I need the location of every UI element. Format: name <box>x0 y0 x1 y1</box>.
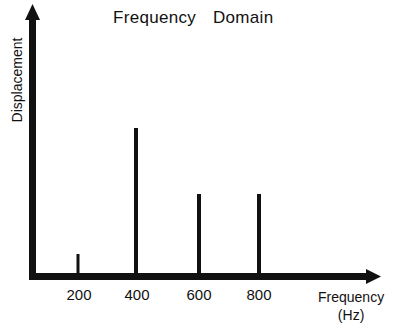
x-axis-label: Frequency (Hz) <box>318 288 384 324</box>
x-axis-arrow-icon <box>366 269 381 284</box>
spectral-line-600 <box>197 194 201 277</box>
x-tick-label: 800 <box>239 286 279 303</box>
x-tick-label: 400 <box>117 286 157 303</box>
x-axis-unit: (Hz) <box>318 306 384 324</box>
spectral-lines <box>77 128 262 277</box>
spectral-line-200 <box>77 254 80 277</box>
y-axis-label: Displacement <box>9 25 25 135</box>
spectral-line-400 <box>134 128 138 277</box>
spectral-line-800 <box>257 194 261 277</box>
y-axis <box>29 18 36 280</box>
x-axis-title: Frequency <box>318 288 384 306</box>
x-tick-label: 200 <box>59 286 99 303</box>
y-axis-arrow-icon <box>25 4 40 20</box>
chart-title: Frequency Domain <box>113 8 273 28</box>
chart-canvas <box>0 0 396 330</box>
x-tick-label: 600 <box>179 286 219 303</box>
